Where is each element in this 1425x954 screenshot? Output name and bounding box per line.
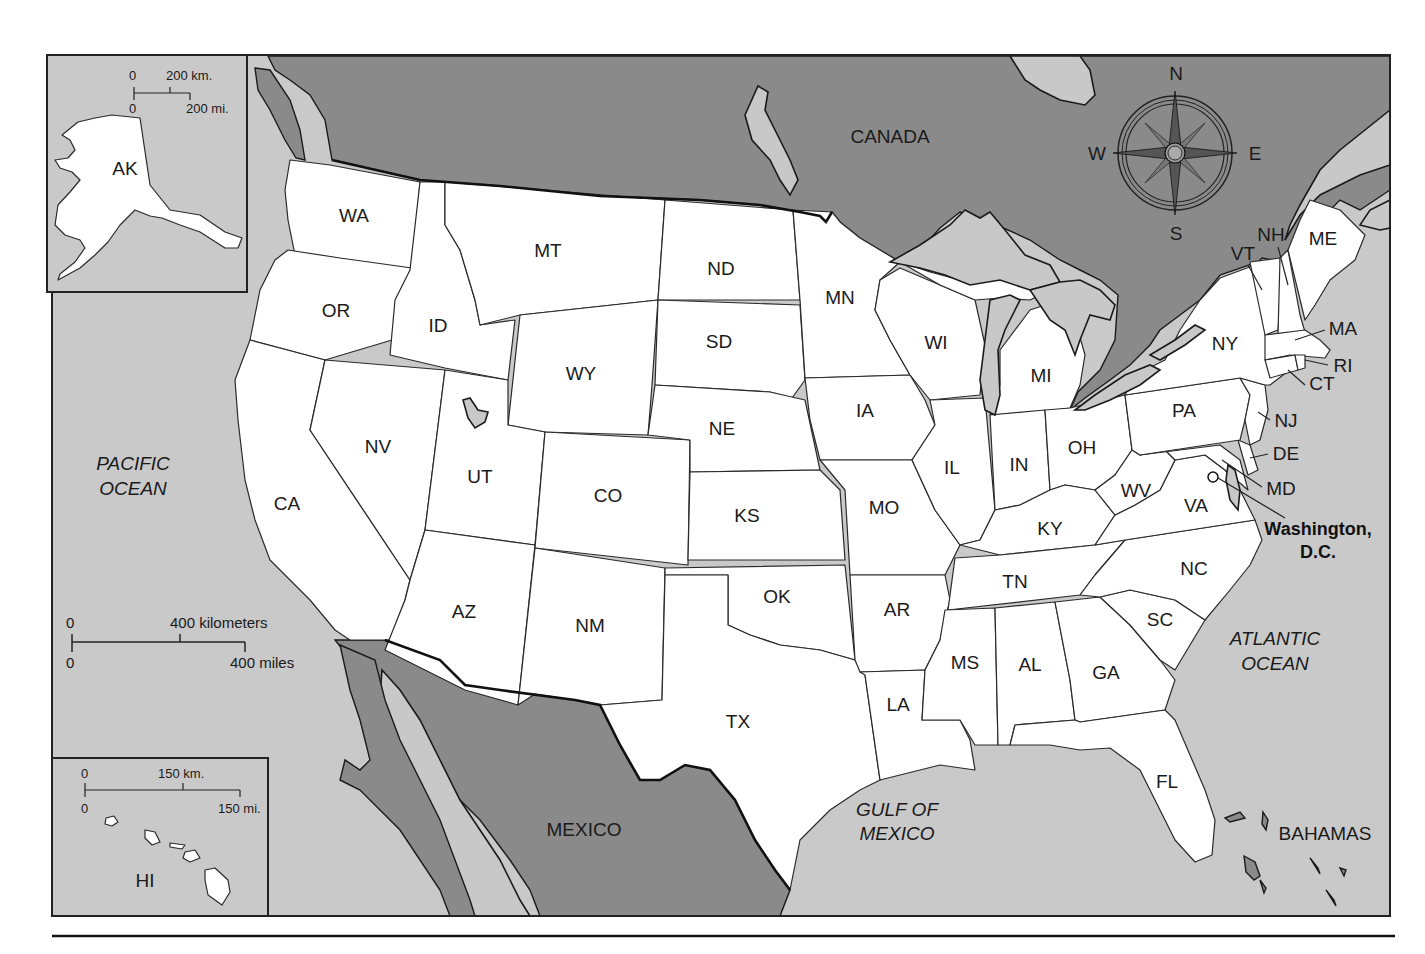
label-ca: CA bbox=[274, 493, 301, 514]
label-ny: NY bbox=[1212, 333, 1239, 354]
label-tx: TX bbox=[726, 711, 751, 732]
label-mo: MO bbox=[869, 497, 900, 518]
label-sc: SC bbox=[1147, 609, 1173, 630]
label-co: CO bbox=[594, 485, 623, 506]
label-ar: AR bbox=[884, 599, 910, 620]
label-ne: NE bbox=[709, 418, 735, 439]
hi-scale-km-label: 150 km. bbox=[158, 766, 204, 781]
scale-km-label: 400 kilometers bbox=[170, 614, 268, 631]
label-la: LA bbox=[886, 694, 910, 715]
label-hi: HI bbox=[136, 870, 155, 891]
hi-scale-km-zero: 0 bbox=[81, 766, 88, 781]
label-canada: CANADA bbox=[850, 126, 930, 147]
alaska-inset bbox=[47, 55, 247, 292]
label-nj: NJ bbox=[1274, 410, 1297, 431]
hawaii-inset bbox=[52, 758, 268, 916]
ak-scale-mi-label: 200 mi. bbox=[186, 101, 229, 116]
label-pacific-2: OCEAN bbox=[99, 478, 167, 499]
label-gulf-2: MEXICO bbox=[860, 823, 935, 844]
label-wv: WV bbox=[1121, 480, 1152, 501]
hi-scale-mi-label: 150 mi. bbox=[218, 801, 261, 816]
label-sd: SD bbox=[706, 331, 732, 352]
label-atlantic-1: ATLANTIC bbox=[1229, 628, 1321, 649]
label-tn: TN bbox=[1002, 571, 1027, 592]
label-ak: AK bbox=[112, 158, 138, 179]
label-fl: FL bbox=[1156, 771, 1178, 792]
label-wa: WA bbox=[339, 205, 369, 226]
label-oh: OH bbox=[1068, 437, 1097, 458]
label-ia: IA bbox=[856, 400, 874, 421]
us-map: N S E W CANADA MEXICO BAHAMAS PACIFIC OC… bbox=[0, 0, 1425, 954]
label-nv: NV bbox=[365, 436, 392, 457]
label-ga: GA bbox=[1092, 662, 1120, 683]
scale-km-zero: 0 bbox=[66, 614, 74, 631]
label-mt: MT bbox=[534, 240, 562, 261]
label-gulf-1: GULF OF bbox=[856, 799, 939, 820]
label-dc-1: Washington, bbox=[1264, 519, 1371, 539]
label-az: AZ bbox=[452, 601, 477, 622]
state-nd[interactable] bbox=[658, 200, 800, 300]
label-mexico: MEXICO bbox=[547, 819, 622, 840]
label-pa: PA bbox=[1172, 400, 1196, 421]
compass-w: W bbox=[1088, 143, 1106, 164]
compass-n: N bbox=[1169, 63, 1183, 84]
label-ct: CT bbox=[1309, 373, 1335, 394]
label-md: MD bbox=[1266, 478, 1296, 499]
label-dc-2: D.C. bbox=[1300, 542, 1336, 562]
compass-e: E bbox=[1249, 143, 1262, 164]
label-atlantic-2: OCEAN bbox=[1241, 653, 1309, 674]
star-icon bbox=[1208, 472, 1218, 482]
label-or: OR bbox=[322, 300, 351, 321]
label-wi: WI bbox=[924, 332, 947, 353]
label-va: VA bbox=[1184, 495, 1208, 516]
label-nm: NM bbox=[575, 615, 605, 636]
label-ri: RI bbox=[1334, 355, 1353, 376]
label-ok: OK bbox=[763, 586, 791, 607]
scale-mi-zero: 0 bbox=[66, 654, 74, 671]
label-al: AL bbox=[1018, 654, 1041, 675]
scale-mi-label: 400 miles bbox=[230, 654, 294, 671]
label-bahamas: BAHAMAS bbox=[1279, 823, 1372, 844]
ak-scale-km-label: 200 km. bbox=[166, 68, 212, 83]
ak-scale-km-zero: 0 bbox=[129, 68, 136, 83]
label-me: ME bbox=[1309, 228, 1338, 249]
label-vt: VT bbox=[1231, 243, 1256, 264]
ak-scale-mi-zero: 0 bbox=[129, 101, 136, 116]
label-nc: NC bbox=[1180, 558, 1207, 579]
label-ky: KY bbox=[1037, 518, 1063, 539]
compass-s: S bbox=[1170, 223, 1183, 244]
label-il: IL bbox=[944, 457, 960, 478]
label-mn: MN bbox=[825, 287, 855, 308]
label-nh: NH bbox=[1257, 224, 1284, 245]
hi-scale-mi-zero: 0 bbox=[81, 801, 88, 816]
label-mi: MI bbox=[1030, 365, 1051, 386]
state-ks[interactable] bbox=[688, 470, 845, 560]
label-de: DE bbox=[1273, 443, 1299, 464]
label-in: IN bbox=[1010, 454, 1029, 475]
label-id: ID bbox=[429, 315, 448, 336]
label-ks: KS bbox=[734, 505, 759, 526]
label-ut: UT bbox=[467, 466, 493, 487]
label-ma: MA bbox=[1329, 318, 1358, 339]
label-wy: WY bbox=[566, 363, 597, 384]
label-nd: ND bbox=[707, 258, 734, 279]
label-pacific-1: PACIFIC bbox=[96, 453, 170, 474]
label-ms: MS bbox=[951, 652, 980, 673]
